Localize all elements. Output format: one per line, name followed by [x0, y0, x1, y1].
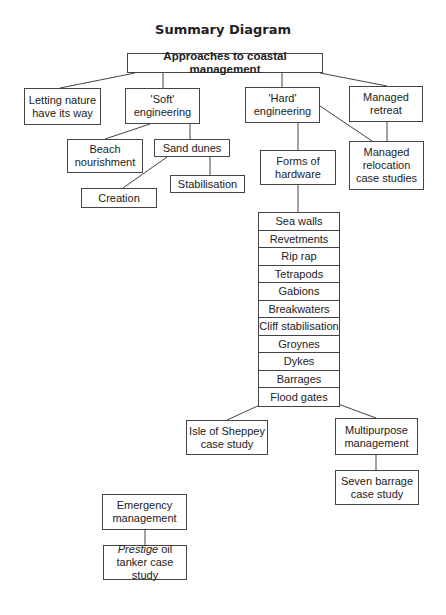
letting-nature-node: Letting nature have its way	[24, 88, 101, 125]
soft-engineering-node: 'Soft' engineering	[125, 88, 200, 124]
beach-nourishment-label: Beach nourishment	[70, 143, 140, 169]
emergency-management-label: Emergency management	[105, 499, 184, 525]
forms-of-hardware-label: Forms of hardware	[263, 155, 333, 181]
root-label: Approaches to coastal management	[130, 50, 320, 76]
stabilisation-node: Stabilisation	[170, 175, 245, 193]
isle-of-sheppey-label: Isle of Sheppey case study	[189, 425, 265, 451]
managed-relocation-node: Managed relocation case studies	[349, 141, 424, 190]
emergency-management-node: Emergency management	[102, 494, 187, 530]
hardware-item: Sea walls	[259, 213, 339, 231]
hardware-item: Cliff stabilisation	[259, 318, 339, 336]
managed-relocation-label: Managed relocation case studies	[352, 146, 421, 185]
creation-node: Creation	[81, 188, 157, 208]
managed-retreat-node: Managed retreat	[349, 86, 423, 122]
prestige-case-study-label: Prestige oil tanker case study	[106, 543, 184, 582]
hard-engineering-node: 'Hard' engineering	[245, 87, 320, 123]
sand-dunes-node: Sand dunes	[154, 139, 230, 157]
hardware-item: Gabions	[259, 283, 339, 301]
managed-retreat-label: Managed retreat	[352, 91, 420, 117]
hardware-item: Groynes	[259, 336, 339, 354]
sand-dunes-label: Sand dunes	[163, 142, 222, 155]
beach-nourishment-node: Beach nourishment	[67, 139, 143, 173]
hardware-item: Dykes	[259, 353, 339, 371]
hardware-item: Rip rap	[259, 248, 339, 266]
forms-of-hardware-node: Forms of hardware	[260, 150, 336, 185]
hardware-item: Barrages	[259, 371, 339, 389]
hardware-item: Revetments	[259, 231, 339, 249]
isle-of-sheppey-node: Isle of Sheppey case study	[186, 420, 268, 455]
hardware-item: Flood gates	[259, 388, 339, 406]
hardware-item: Breakwaters	[259, 301, 339, 319]
creation-label: Creation	[98, 192, 140, 205]
letting-nature-label: Letting nature have its way	[27, 94, 98, 120]
seven-barrage-node: Seven barrage case study	[335, 470, 419, 505]
hardware-list: Sea walls Revetments Rip rap Tetrapods G…	[258, 212, 340, 407]
hardware-item: Tetrapods	[259, 266, 339, 284]
prestige-italic: Prestige	[118, 543, 158, 555]
multipurpose-management-node: Multipurpose management	[335, 418, 418, 455]
hard-engineering-label: 'Hard' engineering	[248, 92, 317, 118]
seven-barrage-label: Seven barrage case study	[338, 475, 416, 501]
root-node: Approaches to coastal management	[127, 53, 323, 73]
soft-engineering-label: 'Soft' engineering	[128, 93, 197, 119]
stabilisation-label: Stabilisation	[178, 178, 237, 191]
multipurpose-management-label: Multipurpose management	[338, 424, 415, 450]
prestige-case-study-node: Prestige oil tanker case study	[103, 545, 187, 580]
